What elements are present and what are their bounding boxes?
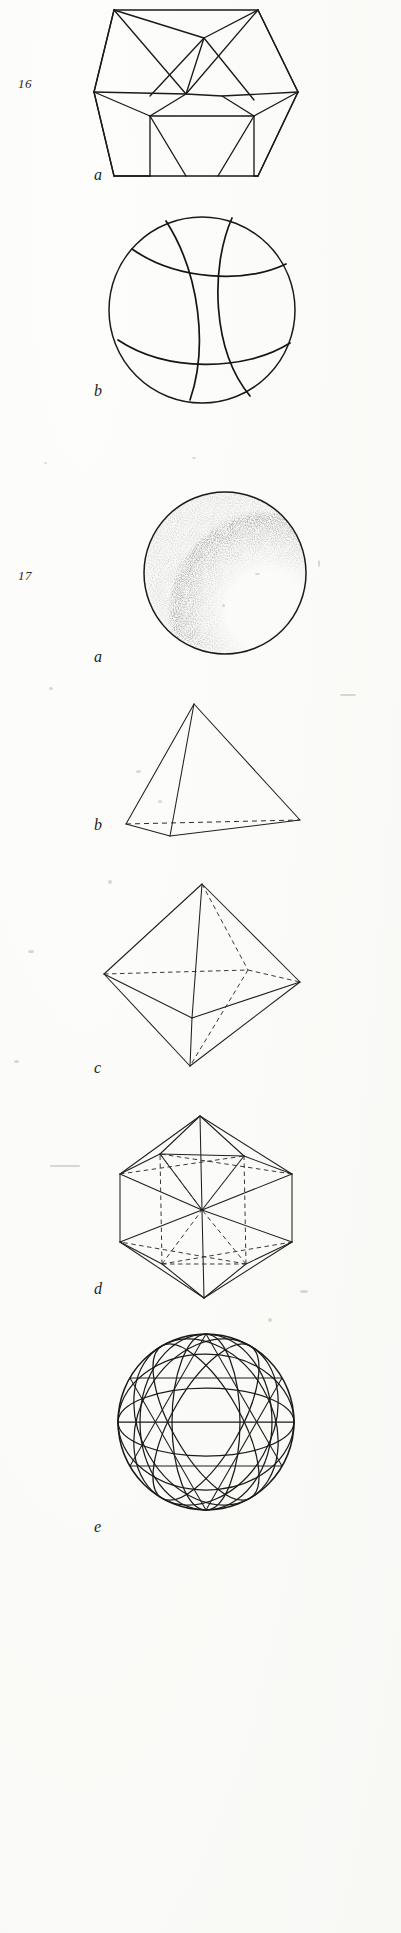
paper-speck (340, 694, 356, 696)
icosahedron-hidden-edges (120, 1154, 292, 1264)
paper-speck (300, 1290, 308, 1293)
tetrahedron-visible-edges (126, 704, 300, 836)
paper-speck (268, 1318, 272, 1322)
great-circle-arcs (118, 218, 290, 400)
mid-band (94, 92, 298, 116)
octahedron-visible-edges (104, 884, 300, 1066)
paper-speck (158, 800, 162, 803)
icosahedron-visible-edges (120, 1116, 292, 1298)
figure-number-16: 16 (18, 76, 32, 92)
figure-16a-svg (86, 4, 316, 184)
paper-speck (28, 950, 34, 953)
figure-17b-label: b (94, 816, 102, 834)
figure-16b-label: b (94, 382, 102, 400)
paper-speck (108, 880, 112, 884)
paper-speck (50, 1165, 80, 1167)
figure-17c-label: c (94, 1059, 101, 1077)
figure-17c-svg (92, 878, 308, 1074)
figure-16b-sphere-drawing (104, 212, 304, 408)
octahedron-hidden-edges (104, 884, 300, 1066)
sphere-outline (109, 217, 295, 403)
figure-17e-geodesic-sphere-drawing (114, 1330, 300, 1516)
figure-17b-tetrahedron-drawing (118, 700, 308, 840)
paper-speck (44, 462, 47, 464)
figure-17b-svg (118, 700, 308, 840)
figure-17d-svg (96, 1112, 312, 1302)
figure-17a-svg (143, 491, 309, 657)
paper-speck (192, 457, 196, 459)
figure-16a-icosahedron-drawing (86, 4, 316, 184)
figure-17d-icosahedron-drawing (96, 1112, 312, 1302)
paper-speck (318, 560, 320, 567)
figure-17d-label: d (94, 1280, 102, 1298)
figure-17e-label: e (94, 1518, 101, 1536)
paper-speck (49, 687, 53, 690)
figure-17c-octahedron-drawing (92, 878, 308, 1074)
figure-16b-svg (104, 212, 304, 408)
figure-17e-svg (114, 1330, 300, 1516)
paper-speck (136, 770, 141, 773)
figure-16a-label: a (94, 166, 102, 184)
figure-number-17: 17 (18, 568, 32, 584)
figure-17a-stippled-sphere-drawing (143, 491, 309, 657)
paper-speck (222, 604, 225, 607)
geodesic-arc-network (105, 1313, 307, 1531)
paper-speck (14, 1060, 19, 1063)
upper-facets (94, 10, 298, 100)
plate-canvas: 16 (0, 0, 401, 1933)
figure-17a-label: a (94, 648, 102, 666)
paper-speck (255, 573, 260, 575)
